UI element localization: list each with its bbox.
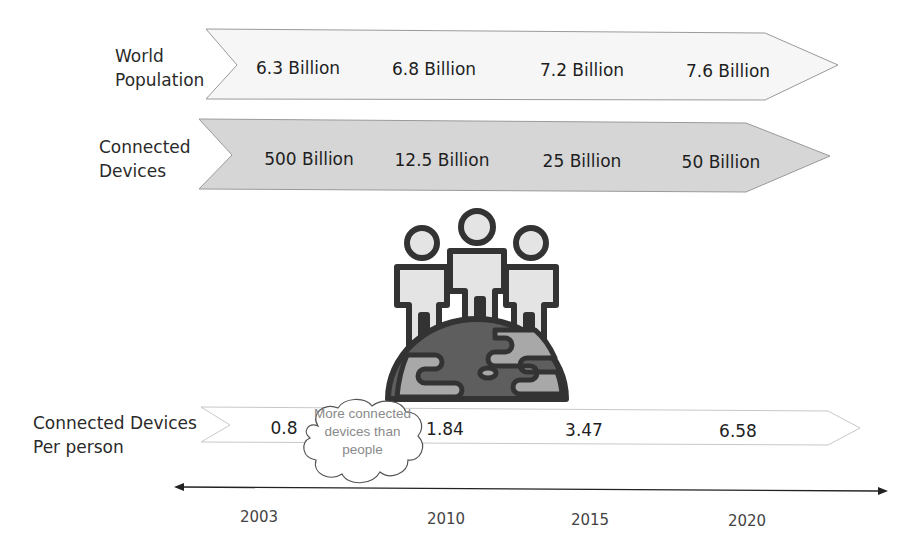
double-arrow-icon — [174, 480, 888, 496]
label-line: Per person — [33, 435, 197, 459]
label-line: Connected — [99, 135, 191, 159]
connected-devices-label: Connected Devices — [99, 135, 191, 183]
timeline-axis — [174, 480, 888, 496]
devices-2010: 12.5 Billion — [395, 150, 490, 170]
callout-line: More connected — [300, 405, 425, 423]
devices-2015: 25 Billion — [543, 151, 622, 171]
per-person-2015: 3.47 — [565, 420, 603, 440]
population-2020: 7.6 Billion — [686, 61, 770, 81]
year-2020: 2020 — [728, 512, 766, 530]
label-line: Population — [115, 68, 204, 92]
population-2003: 6.3 Billion — [256, 58, 340, 78]
year-2010: 2010 — [427, 510, 465, 528]
year-2003: 2003 — [240, 508, 278, 526]
population-2010: 6.8 Billion — [392, 59, 476, 79]
label-line: Devices — [99, 159, 191, 183]
per-person-2010: 1.84 — [426, 419, 464, 439]
devices-2003: 500 Billion — [264, 149, 354, 169]
people-on-globe-illustration — [385, 205, 570, 403]
population-2015: 7.2 Billion — [540, 60, 624, 80]
label-line: World — [115, 44, 204, 68]
per-person-2020: 6.58 — [719, 421, 757, 441]
year-2015: 2015 — [571, 511, 609, 529]
callout-line: people — [300, 441, 425, 459]
people-globe-icon — [385, 205, 570, 403]
callout-line: devices than — [300, 423, 425, 441]
per-person-label: Connected Devices Per person — [33, 411, 197, 459]
cloud-callout-text: More connected devices than people — [300, 405, 425, 459]
per-person-2003: 0.8 — [270, 418, 297, 438]
label-line: Connected Devices — [33, 411, 197, 435]
devices-2020: 50 Billion — [682, 152, 761, 172]
world-population-label: World Population — [115, 44, 204, 92]
